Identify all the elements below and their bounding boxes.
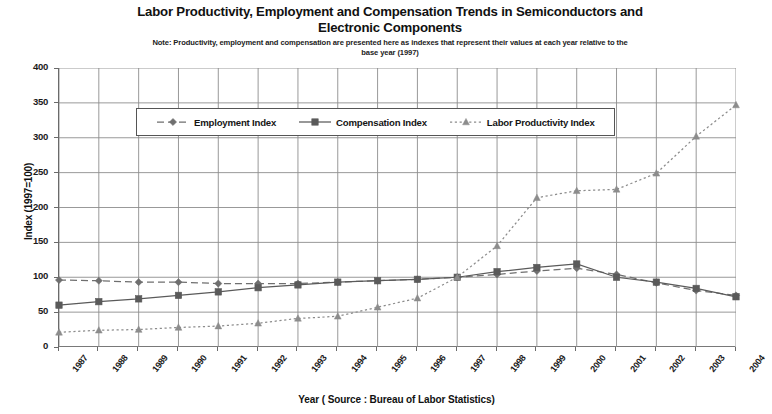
legend-item-compensation-index[interactable]: Compensation Index [298, 116, 427, 128]
y-tick-mark [54, 277, 58, 278]
x-tick-label: 2002 [668, 353, 687, 374]
y-tick-label: 100 [4, 270, 48, 281]
y-tick-mark [54, 68, 58, 69]
x-tick-label: 1999 [548, 353, 567, 374]
x-tick-mark [137, 347, 138, 351]
x-tick-label: 1987 [70, 353, 89, 374]
x-tick-label: 1988 [110, 353, 129, 374]
x-tick-label: 1990 [190, 353, 209, 374]
legend-item-employment-index[interactable]: Employment Index [156, 116, 276, 128]
chart-title-line2: Electronic Components [318, 20, 462, 35]
x-axis-title: Year ( Source : Bureau of Labor Statisti… [58, 394, 735, 405]
x-tick-mark [336, 347, 337, 351]
title-block: Labor Productivity, Employment and Compe… [60, 4, 720, 57]
y-tick-mark [54, 242, 58, 243]
x-tick-mark [695, 347, 696, 351]
legend-label: Labor Productivity Index [487, 117, 595, 128]
y-tick-label: 200 [4, 201, 48, 212]
legend-item-labor-productivity-index[interactable]: Labor Productivity Index [449, 116, 595, 128]
x-tick-label: 1992 [269, 353, 288, 374]
x-tick-mark [416, 347, 417, 351]
chart-title-line1: Labor Productivity, Employment and Compe… [137, 4, 643, 19]
x-tick-mark [217, 347, 218, 351]
chart-title: Labor Productivity, Employment and Compe… [60, 4, 720, 35]
x-tick-mark [97, 347, 98, 351]
series-labor-productivity-index [56, 101, 740, 335]
x-tick-mark [177, 347, 178, 351]
chart-note: Note: Productivity, employment and compe… [60, 38, 720, 57]
x-tick-label: 2000 [588, 353, 607, 374]
x-tick-mark [655, 347, 656, 351]
x-tick-mark [735, 347, 736, 351]
y-tick-label: 0 [4, 340, 48, 351]
x-tick-label: 1989 [150, 353, 169, 374]
x-tick-label: 1994 [349, 353, 368, 374]
x-tick-mark [496, 347, 497, 351]
y-tick-label: 350 [4, 96, 48, 107]
y-tick-mark [54, 312, 58, 313]
x-tick-label: 2003 [707, 353, 726, 374]
x-tick-label: 1991 [230, 353, 249, 374]
y-tick-mark [54, 172, 58, 173]
x-tick-label: 1993 [309, 353, 328, 374]
x-tick-label: 1996 [429, 353, 448, 374]
x-tick-mark [456, 347, 457, 351]
x-tick-mark [615, 347, 616, 351]
x-tick-mark [376, 347, 377, 351]
x-tick-mark [296, 347, 297, 351]
series-compensation-index [56, 261, 739, 309]
y-tick-label: 50 [4, 305, 48, 316]
chart-note-line2: base year (1997) [361, 48, 419, 57]
y-tick-mark [54, 137, 58, 138]
x-tick-mark [575, 347, 576, 351]
y-tick-label: 400 [4, 61, 48, 72]
square-marker-icon [298, 116, 332, 128]
y-tick-mark [54, 207, 58, 208]
legend-label: Employment Index [194, 117, 276, 128]
x-tick-label: 2004 [747, 353, 766, 374]
x-tick-label: 2001 [628, 353, 647, 374]
x-tick-mark [257, 347, 258, 351]
legend-label: Compensation Index [336, 117, 427, 128]
chart-legend: Employment IndexCompensation IndexLabor … [136, 108, 615, 136]
y-tick-label: 300 [4, 131, 48, 142]
diamond-marker-icon [156, 116, 190, 128]
y-tick-mark [54, 102, 58, 103]
chart-container: Labor Productivity, Employment and Compe… [0, 0, 772, 414]
series-employment-index [55, 265, 739, 299]
x-tick-label: 1995 [389, 353, 408, 374]
x-tick-label: 1998 [508, 353, 527, 374]
x-tick-mark [58, 347, 59, 351]
chart-note-line1: Note: Productivity, employment and compe… [152, 38, 627, 47]
y-tick-label: 150 [4, 235, 48, 246]
x-tick-mark [535, 347, 536, 351]
x-tick-label: 1997 [468, 353, 487, 374]
triangle-marker-icon [449, 116, 483, 128]
y-tick-label: 250 [4, 166, 48, 177]
